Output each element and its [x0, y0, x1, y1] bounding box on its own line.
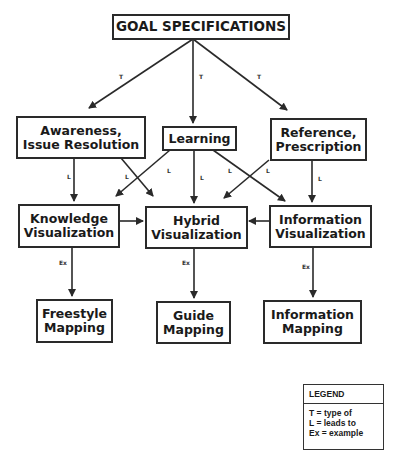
node-awareness-issue-resolution: Awareness, Issue Resolution [16, 116, 146, 159]
legend: LEGEND T = type of L = leads to Ex = exa… [303, 384, 384, 450]
node-learning: Learning [162, 126, 237, 151]
edge-label-leads-to: L [125, 173, 129, 180]
legend-items: T = type of L = leads to Ex = example [304, 404, 383, 442]
edge-label-example: Ex [59, 259, 67, 266]
node-reference-prescription: Reference, Prescription [270, 118, 367, 161]
node-hybrid-visualization: Hybrid Visualization [145, 206, 248, 249]
legend-item-example: Ex = example [309, 428, 378, 438]
edge-goal-awareness [89, 39, 193, 108]
node-information-visualization: Information Visualization [269, 205, 372, 248]
edge-label-leads-to: L [266, 167, 270, 174]
node-freestyle-mapping: Freestyle Mapping [36, 299, 113, 343]
legend-title: LEGEND [304, 385, 383, 404]
edge-reference-hybrid [224, 160, 269, 198]
edge-label-example: Ex [182, 259, 190, 266]
legend-item-leads-to: L = leads to [309, 418, 378, 428]
edge-label-type-of: T [119, 73, 123, 80]
edge-goal-reference [193, 39, 287, 110]
edge-label-type-of: T [199, 73, 203, 80]
edge-label-leads-to: L [228, 167, 232, 174]
edge-label-leads-to: L [318, 175, 322, 182]
edge-label-type-of: T [257, 73, 261, 80]
edge-label-example: Ex [302, 263, 310, 270]
edge-label-leads-to: L [67, 173, 71, 180]
edge-label-leads-to: L [167, 167, 171, 174]
node-guide-mapping: Guide Mapping [156, 301, 231, 344]
node-knowledge-visualization: Knowledge Visualization [18, 204, 120, 248]
node-information-mapping: Information Mapping [263, 300, 362, 344]
edge-label-leads-to: L [200, 174, 204, 181]
legend-item-type-of: T = type of [309, 408, 378, 418]
node-goal-specifications: GOAL SPECIFICATIONS [112, 14, 290, 40]
